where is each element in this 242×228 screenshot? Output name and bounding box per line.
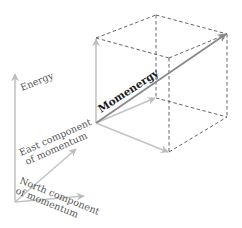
momenergy-label: Momenergy xyxy=(96,66,162,115)
north-component-arrow xyxy=(96,123,168,152)
momenergy-diagram: Energy East component of momentum North … xyxy=(0,0,242,228)
energy-label: Energy xyxy=(19,69,56,92)
momenergy-arrow xyxy=(96,34,226,123)
